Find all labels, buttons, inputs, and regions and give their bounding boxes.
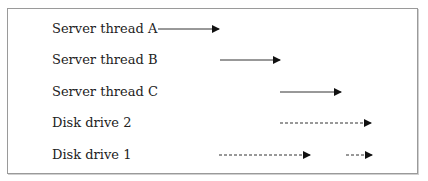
timeline-arrows: [0, 0, 428, 181]
